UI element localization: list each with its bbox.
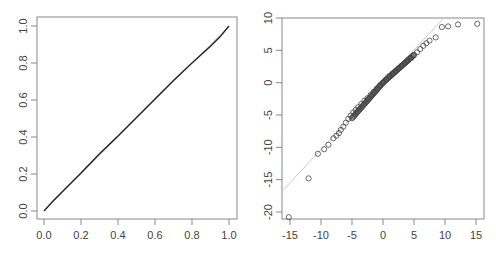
x-tick-label: 0.4 (110, 229, 125, 241)
y-tick-label: 0.0 (17, 203, 29, 218)
data-point (446, 24, 451, 29)
data-point (455, 22, 460, 27)
y-tick-label: 0.8 (17, 55, 29, 70)
empirical-line (44, 26, 229, 211)
x-tick-label: 0.0 (36, 229, 51, 241)
x-tick-label: 1.0 (221, 229, 236, 241)
y-tick-label: -10 (262, 139, 274, 155)
data-point (433, 35, 438, 40)
normal-qq-plot: -15-10-5051015-20-15-10-50510 (262, 12, 484, 241)
y-tick-label: 0 (262, 80, 274, 86)
x-tick-label: 0 (380, 229, 386, 241)
data-point (418, 46, 423, 51)
data-point (315, 151, 320, 156)
y-tick-label: -20 (262, 204, 274, 220)
y-tick-label: -15 (262, 172, 274, 188)
x-tick-label: -15 (282, 229, 298, 241)
data-point (306, 176, 311, 181)
x-tick-label: 0.6 (147, 229, 162, 241)
y-tick-label: 0.4 (17, 129, 29, 144)
y-tick-label: 5 (262, 47, 274, 53)
uniform-pp-plot: 0.00.20.40.60.81.00.00.20.40.60.81.0 (17, 17, 237, 241)
qq-plots-figure: 0.00.20.40.60.81.00.00.20.40.60.81.0 -15… (0, 0, 496, 255)
x-tick-label: 0.2 (73, 229, 88, 241)
x-tick-label: 0.8 (184, 229, 199, 241)
y-tick-label: 0.6 (17, 92, 29, 107)
data-point (322, 147, 327, 152)
x-tick-label: 5 (411, 229, 417, 241)
data-point (326, 142, 331, 147)
x-tick-label: -5 (347, 229, 357, 241)
y-tick-label: 10 (262, 12, 274, 24)
data-point (439, 24, 444, 29)
data-point (475, 21, 480, 26)
x-tick-label: -10 (313, 229, 329, 241)
x-tick-label: 15 (470, 229, 482, 241)
y-tick-label: -5 (262, 110, 274, 120)
x-tick-label: 10 (439, 229, 451, 241)
plot-frame (282, 18, 484, 219)
y-tick-label: 1.0 (17, 18, 29, 33)
y-tick-label: 0.2 (17, 166, 29, 181)
